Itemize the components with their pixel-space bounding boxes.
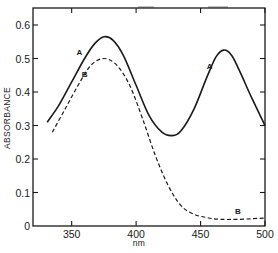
y-tick-label: 0.5	[15, 53, 30, 65]
absorbance-chart: 350400450500 00.10.20.30.40.50.6 AABB nm…	[0, 0, 278, 253]
series-b-line	[52, 59, 265, 220]
x-axis-title: nm	[133, 238, 145, 248]
curve-label-a: A	[207, 62, 213, 71]
y-tick-label: 0.6	[15, 19, 30, 31]
y-tick-label: 0.4	[15, 86, 30, 98]
y-tick-label: 0.1	[15, 187, 30, 199]
curve-labels: AABB	[77, 48, 242, 216]
y-tick-label: 0	[24, 220, 30, 232]
x-tick-label: 500	[256, 228, 274, 240]
x-tick-label: 450	[192, 228, 210, 240]
curve-label-a: A	[77, 48, 83, 57]
y-tick-label: 0.3	[15, 120, 30, 132]
curve-label-b: B	[82, 70, 88, 79]
y-axis-title: ABSORBANCE	[2, 87, 12, 149]
curve-label-b: B	[235, 207, 241, 216]
x-tick-label: 350	[63, 228, 81, 240]
series-layer	[47, 37, 265, 220]
y-tick-label: 0.2	[15, 153, 30, 165]
